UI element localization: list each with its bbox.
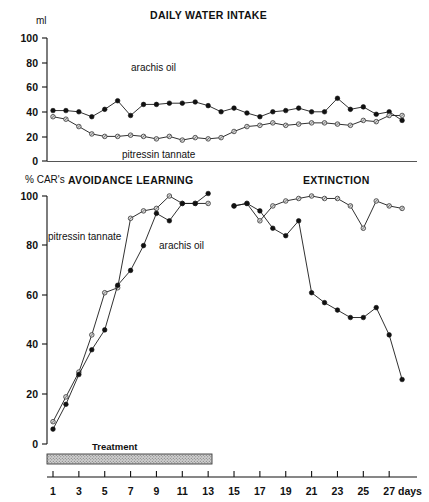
data-point-arachis-oil-3 (309, 290, 314, 295)
bottom-pitressin-tannate-label: pitressin tannate (48, 231, 122, 242)
top-panel-y-ticks: 100 80 60 40 20 0 (20, 32, 47, 167)
data-point-arachis-oil (322, 110, 327, 115)
top-ytick-80: 80 (26, 57, 38, 69)
data-point-arachis-oil (64, 108, 69, 113)
data-point-arachis-oil-2 (115, 283, 120, 288)
data-point-arachis-oil (128, 113, 133, 118)
data-point-arachis-oil (361, 105, 366, 110)
data-point-arachis-oil (115, 98, 120, 103)
data-point-arachis-oil (51, 108, 56, 113)
x-tick-label-27: 27 (383, 485, 395, 497)
data-point-arachis-oil (309, 110, 314, 115)
data-point-arachis-oil-2 (141, 243, 146, 248)
top-arachis-oil-label: arachis oil (131, 62, 176, 73)
x-tick-label-25: 25 (357, 485, 369, 497)
data-point-arachis-oil (296, 106, 301, 111)
data-point-arachis-oil-3 (348, 315, 353, 320)
data-point-arachis-oil (283, 108, 288, 113)
data-point-arachis-oil-3 (232, 204, 237, 209)
data-point-arachis-oil-3 (335, 308, 340, 313)
data-point-arachis-oil (154, 102, 159, 107)
x-tick-label-7: 7 (128, 485, 134, 497)
series-line-pitressin-tannate-0 (53, 196, 208, 422)
x-tick-label-23: 23 (332, 485, 344, 497)
data-point-arachis-oil (141, 102, 146, 107)
data-point-arachis-oil (374, 112, 379, 117)
bottom-ytick-20: 20 (26, 388, 38, 400)
bottom-panel-plot (51, 191, 405, 431)
top-panel-y-unit: ml (36, 15, 47, 26)
top-pitressin-tannate-label: pitressin tannate (122, 149, 196, 160)
data-point-arachis-oil (232, 106, 237, 111)
data-point-arachis-oil (167, 101, 172, 106)
data-point-arachis-oil-2 (167, 219, 172, 224)
data-point-arachis-oil (219, 110, 224, 115)
top-ytick-0: 0 (32, 155, 38, 167)
figure-root: DAILY WATER INTAKE ml 100 80 60 40 20 0 … (0, 0, 429, 502)
data-point-arachis-oil-3 (361, 315, 366, 320)
data-point-arachis-oil-3 (322, 300, 327, 305)
top-ytick-100: 100 (20, 32, 38, 44)
data-point-arachis-oil (245, 111, 250, 116)
treatment-bar: Treatment (47, 441, 212, 464)
treatment-bar-rect (47, 454, 212, 464)
data-point-arachis-oil (400, 118, 405, 123)
data-point-arachis-oil-2 (51, 427, 56, 432)
bottom-arachis-oil-label: arachis oil (159, 240, 204, 251)
top-panel: DAILY WATER INTAKE ml 100 80 60 40 20 0 … (20, 9, 417, 167)
data-point-arachis-oil-2 (154, 211, 159, 216)
x-axis: 13579111315171921232527 days (47, 471, 422, 497)
x-tick-label-15: 15 (228, 485, 240, 497)
data-point-arachis-oil-2 (206, 191, 211, 196)
top-ytick-40: 40 (26, 106, 38, 118)
bottom-panel-title-right: EXTINCTION (303, 174, 370, 186)
x-tick-label-17: 17 (254, 485, 266, 497)
data-point-arachis-oil (89, 114, 94, 119)
x-tick-label-13: 13 (202, 485, 214, 497)
treatment-bar-label: Treatment (92, 441, 138, 452)
bottom-ytick-60: 60 (26, 289, 38, 301)
data-point-arachis-oil-2 (77, 372, 82, 377)
x-axis-ticks: 13579111315171921232527 (50, 471, 395, 497)
data-point-arachis-oil-3 (258, 209, 263, 214)
x-tick-label-19: 19 (280, 485, 292, 497)
x-tick-label-1: 1 (50, 485, 56, 497)
data-point-arachis-oil-3 (271, 226, 276, 231)
x-tick-label-21: 21 (306, 485, 318, 497)
data-point-arachis-oil-3 (400, 377, 405, 382)
data-point-arachis-oil-3 (374, 305, 379, 310)
bottom-panel-title-left: AVOIDANCE LEARNING (68, 174, 193, 186)
series-line-arachis-oil-3 (234, 203, 402, 379)
data-point-arachis-oil-3 (245, 201, 250, 206)
data-point-arachis-oil (271, 110, 276, 115)
data-point-arachis-oil-2 (193, 201, 198, 206)
data-point-arachis-oil-3 (296, 219, 301, 224)
top-ytick-20: 20 (26, 131, 38, 143)
bottom-ytick-0: 0 (32, 438, 38, 450)
x-tick-label-3: 3 (76, 485, 82, 497)
top-panel-plot (51, 96, 405, 142)
data-point-arachis-oil-2 (128, 268, 133, 273)
data-point-arachis-oil (77, 110, 82, 115)
bottom-ytick-40: 40 (26, 338, 38, 350)
data-point-arachis-oil (335, 96, 340, 101)
bottom-ytick-80: 80 (26, 239, 38, 251)
top-ytick-60: 60 (26, 81, 38, 93)
x-tick-label-9: 9 (154, 485, 160, 497)
data-point-arachis-oil-3 (283, 233, 288, 238)
bottom-ytick-100: 100 (20, 190, 38, 202)
x-tick-label-11: 11 (177, 485, 188, 497)
data-point-arachis-oil (348, 107, 353, 112)
data-point-arachis-oil (206, 103, 211, 108)
bottom-panel-y-ticks: 100 80 60 40 20 0 (20, 190, 47, 450)
data-point-arachis-oil (258, 114, 263, 119)
data-point-arachis-oil-2 (64, 402, 69, 407)
bottom-panel-y-unit: % CAR's (25, 174, 65, 185)
x-tick-label-5: 5 (102, 485, 108, 497)
data-point-arachis-oil-2 (180, 201, 185, 206)
data-point-arachis-oil (180, 101, 185, 106)
series-line-arachis-oil-2 (53, 194, 208, 430)
data-point-arachis-oil-2 (89, 347, 94, 352)
data-point-arachis-oil (193, 100, 198, 105)
top-panel-title: DAILY WATER INTAKE (150, 9, 267, 21)
